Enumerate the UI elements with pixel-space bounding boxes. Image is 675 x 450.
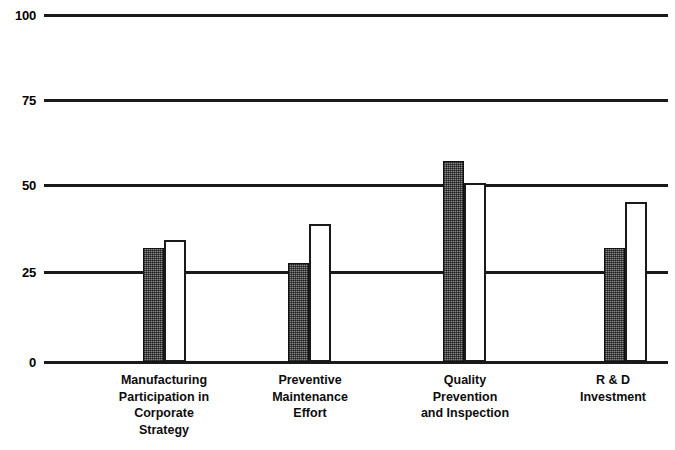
bar-series1-cat0 xyxy=(143,248,164,362)
x-axis-label-cat1-line1: Maintenance xyxy=(235,389,385,406)
bar-series2-cat2 xyxy=(464,183,486,362)
x-axis-label-cat2-line0: Quality xyxy=(389,372,541,389)
bar-series1-cat1 xyxy=(288,263,309,362)
x-axis-label-cat2-line2: and Inspection xyxy=(389,405,541,422)
x-axis-label-cat3-line1: Investment xyxy=(553,389,673,406)
bar-series1-cat3 xyxy=(604,248,625,362)
x-axis-label-cat2: Quality Prevention and Inspection xyxy=(389,372,541,422)
x-axis-label-cat1-line2: Effort xyxy=(235,405,385,422)
x-axis-label-cat0: Manufacturing Participation in Corporate… xyxy=(83,372,245,438)
bar-chart: 100 75 50 25 0 Manufacturing Participati… xyxy=(0,0,675,450)
bar-series2-cat0 xyxy=(164,240,186,362)
x-axis-label-cat1: Preventive Maintenance Effort xyxy=(235,372,385,422)
x-axis-label-cat3-line0: R & D xyxy=(553,372,673,389)
bar-series2-cat1 xyxy=(309,224,331,362)
x-axis-label-cat0-line1: Participation in xyxy=(83,389,245,406)
x-axis-label-cat0-line2: Corporate xyxy=(83,405,245,422)
x-axis-label-cat0-line3: Strategy xyxy=(83,422,245,439)
x-axis-label-cat1-line0: Preventive xyxy=(235,372,385,389)
bar-series1-cat2 xyxy=(443,161,464,362)
x-axis-label-cat3: R & D Investment xyxy=(553,372,673,405)
x-axis-label-cat0-line0: Manufacturing xyxy=(83,372,245,389)
x-axis-label-cat2-line1: Prevention xyxy=(389,389,541,406)
bar-series2-cat3 xyxy=(625,202,647,362)
